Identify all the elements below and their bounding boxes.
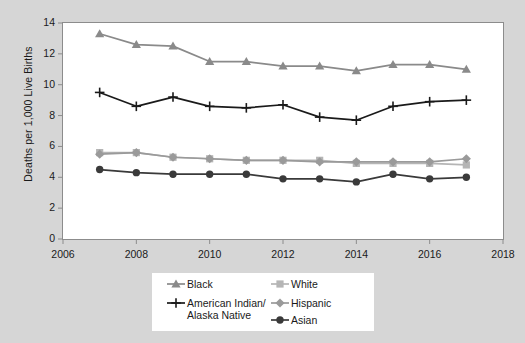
data-point-marker bbox=[169, 171, 176, 178]
data-point-marker bbox=[243, 171, 250, 178]
data-point-marker bbox=[315, 112, 325, 122]
x-axis-tick-label: 2010 bbox=[187, 248, 233, 260]
chart-series bbox=[95, 29, 471, 74]
data-point-marker bbox=[352, 115, 362, 125]
legend-item-swatch bbox=[271, 298, 289, 307]
data-point-marker bbox=[132, 102, 142, 112]
data-point-marker bbox=[462, 95, 472, 105]
x-axis-tick-label: 2016 bbox=[407, 248, 453, 260]
x-axis-tick-label: 2008 bbox=[113, 248, 159, 260]
legend-item-swatch bbox=[271, 280, 289, 287]
chart-legend: BlackAmerican Indian/ Alaska NativeWhite… bbox=[152, 273, 374, 331]
x-axis-tick-label: 2014 bbox=[333, 248, 379, 260]
data-point-marker bbox=[276, 316, 283, 323]
y-axis-tick-label: 10 bbox=[29, 78, 55, 90]
data-point-marker bbox=[168, 92, 178, 102]
legend-item-label: Asian bbox=[291, 314, 317, 326]
data-point-marker bbox=[95, 29, 104, 37]
data-point-marker bbox=[316, 175, 323, 182]
y-axis-tick-label: 8 bbox=[29, 109, 55, 121]
y-axis-tick-label: 0 bbox=[29, 232, 55, 244]
y-axis-tick-label: 12 bbox=[29, 47, 55, 59]
y-axis-tick-label: 4 bbox=[29, 170, 55, 182]
legend-item-swatch bbox=[271, 316, 289, 323]
data-point-marker bbox=[95, 88, 105, 98]
y-axis-tick-label: 6 bbox=[29, 139, 55, 151]
legend-item-label: White bbox=[291, 278, 318, 290]
data-point-marker bbox=[425, 97, 435, 107]
y-axis-tick-label: 2 bbox=[29, 201, 55, 213]
data-point-marker bbox=[388, 102, 398, 112]
chart-series bbox=[96, 166, 470, 186]
legend-item-swatch bbox=[167, 298, 185, 308]
chart-figure: Deaths per 1,000 Live Births 02468101214… bbox=[0, 0, 525, 343]
data-point-marker bbox=[426, 175, 433, 182]
legend-item-label: Black bbox=[187, 278, 213, 290]
data-point-marker bbox=[278, 100, 288, 110]
x-axis-tick-label: 2006 bbox=[40, 248, 86, 260]
chart-series bbox=[95, 88, 471, 125]
legend-item-label: Hispanic bbox=[291, 297, 331, 309]
data-point-marker bbox=[242, 103, 252, 113]
data-point-marker bbox=[171, 298, 181, 308]
legend-item-label: American Indian/ Alaska Native bbox=[187, 297, 266, 321]
data-point-marker bbox=[389, 171, 396, 178]
data-point-marker bbox=[353, 178, 360, 185]
x-axis-tick-label: 2018 bbox=[480, 248, 525, 260]
data-point-marker bbox=[205, 102, 215, 112]
x-axis-tick-label: 2012 bbox=[260, 248, 306, 260]
data-point-marker bbox=[276, 280, 283, 287]
data-point-marker bbox=[275, 298, 284, 307]
data-point-marker bbox=[133, 169, 140, 176]
data-point-marker bbox=[463, 174, 470, 181]
data-point-marker bbox=[96, 166, 103, 173]
legend-item-swatch bbox=[167, 279, 185, 287]
data-point-marker bbox=[206, 171, 213, 178]
y-axis-tick-label: 14 bbox=[29, 16, 55, 28]
data-point-marker bbox=[279, 175, 286, 182]
